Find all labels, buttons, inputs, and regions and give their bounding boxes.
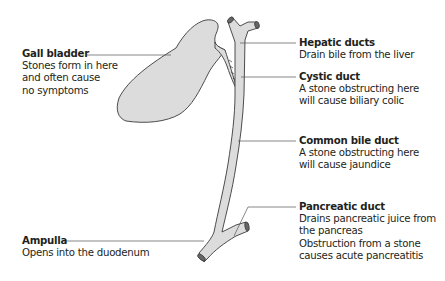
label-ampulla: Ampulla Opens into the duodenum — [22, 235, 149, 259]
label-common-bile-duct: Common bile duct A stone obstructing her… — [299, 135, 419, 172]
ampulla-description: Opens into the duodenum — [22, 247, 149, 259]
pancreatic-duct-description: Drains pancreatic juice from the pancrea… — [299, 213, 436, 262]
gall-bladder-title: Gall bladder — [22, 48, 118, 60]
cystic-duct-description: A stone obstructing here will cause bili… — [299, 83, 419, 107]
gall-bladder-description: Stones form in here and often cause no s… — [22, 60, 118, 97]
gall-bladder-shape — [117, 20, 225, 123]
common-bile-duct-title: Common bile duct — [299, 135, 419, 147]
pancreatic-duct-title: Pancreatic duct — [299, 201, 436, 213]
hepatic-ducts-description: Drain bile from the liver — [299, 49, 414, 61]
hepatic-ducts-title: Hepatic ducts — [299, 37, 414, 49]
cystic-duct-title: Cystic duct — [299, 71, 419, 83]
ampulla-title: Ampulla — [22, 235, 149, 247]
label-hepatic-ducts: Hepatic ducts Drain bile from the liver — [299, 37, 414, 61]
label-gall-bladder: Gall bladder Stones form in here and oft… — [22, 48, 118, 97]
common-bile-duct-description: A stone obstructing here will cause jaun… — [299, 147, 419, 171]
label-cystic-duct: Cystic duct A stone obstructing here wil… — [299, 71, 419, 108]
label-pancreatic-duct: Pancreatic duct Drains pancreatic juice … — [299, 201, 436, 262]
